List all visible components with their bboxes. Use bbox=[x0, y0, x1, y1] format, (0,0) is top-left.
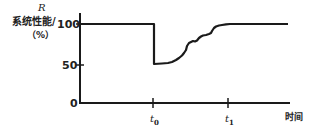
performance-curve bbox=[80, 24, 288, 64]
y-tick-label-50: 50 bbox=[62, 60, 77, 71]
x-tick-label-t0: t0 bbox=[150, 114, 159, 126]
x-tick-label-t1: t1 bbox=[225, 114, 234, 126]
y-tick-label-0: 0 bbox=[70, 98, 78, 109]
t1-subscript: 1 bbox=[229, 118, 234, 127]
x-axis-label: 时间 bbox=[285, 113, 303, 122]
y-axis-label: 系统性能/ bbox=[12, 17, 56, 27]
y-axis-unit: （%） bbox=[27, 31, 54, 40]
y-axis-symbol: R bbox=[38, 3, 46, 13]
y-tick-label-100: 100 bbox=[57, 19, 80, 30]
t0-subscript: 0 bbox=[154, 118, 159, 127]
